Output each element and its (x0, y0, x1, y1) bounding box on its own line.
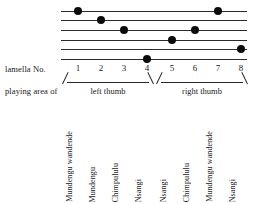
data-point-lamella-2 (97, 16, 105, 24)
lamella-line-2 (61, 20, 247, 21)
lamella-line-3 (61, 30, 247, 31)
data-point-lamella-1 (74, 7, 82, 15)
lamella-name-6: Chimpululu (183, 163, 191, 202)
lamella-no-row-label: lamella No. (5, 64, 46, 74)
data-point-lamella-5 (168, 36, 176, 44)
data-point-lamella-7 (214, 7, 222, 15)
caption-right-thumb: right thumb (156, 86, 248, 96)
group-bracket-left-thumb (62, 72, 154, 84)
lamella-name-2: Mundengu (89, 167, 97, 202)
lamella-name-5: Nsangi (160, 179, 168, 202)
bracket-base (67, 82, 149, 83)
lamella-name-7: Mundengu wandende (206, 131, 214, 202)
data-point-lamella-6 (191, 26, 199, 34)
bracket-base (161, 82, 243, 83)
playing-area-row-label: playing area of (5, 86, 57, 96)
group-bracket-right-thumb (156, 72, 248, 84)
caption-left-thumb: left thumb (62, 86, 154, 96)
lamella-line-grid (61, 11, 247, 60)
lamella-name-8: Nsangi (229, 179, 237, 202)
lamella-line-5 (61, 49, 247, 50)
lamella-line-4 (61, 40, 247, 41)
lamella-name-3: Chimpululu (112, 163, 120, 202)
lamella-name-1: Mundengu wandende (66, 131, 74, 202)
data-point-lamella-3 (120, 26, 128, 34)
lamella-tuning-diagram: lamella No. playing area of 1 2 3 4 5 6 … (0, 0, 265, 204)
lamella-name-4: Nsangi (135, 179, 143, 202)
lamella-line-6 (61, 59, 247, 60)
data-point-lamella-8 (237, 45, 245, 53)
data-point-lamella-4 (143, 55, 151, 63)
